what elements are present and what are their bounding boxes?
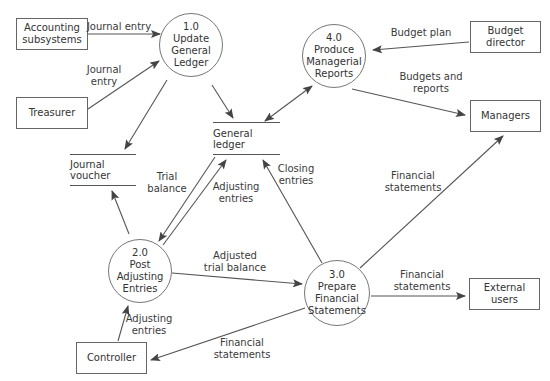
entity-treasurer: Treasurer [16,97,88,129]
label-fs-external: Financial statements [394,269,451,293]
label-journal-entry-1: Journal entry [87,21,151,33]
flow-fs-managers [360,136,503,268]
label-fs-managers: Financial statements [385,170,442,194]
label-fs-controller: Financial statements [214,337,271,361]
store-journal-voucher: Journal voucher [70,154,136,186]
label-budget-plan: Budget plan [391,27,452,39]
process-3-prepare-financial-statements: 3.0 Prepare Financial Statements [304,260,370,326]
process-1-update-general-ledger: 1.0 Update General Ledger [159,13,223,77]
process-4-produce-managerial-reports: 4.0 Produce Managerial Reports [302,24,366,88]
flow-trial-balance [159,157,215,241]
entity-accounting-subsystems: Accountingsubsystems [16,18,88,50]
entity-budget-director: Budgetdirector [470,21,541,53]
store-general-ledger: General ledger [213,122,280,155]
flow-1-to-jv [125,80,167,149]
label-closing-entries: Closing entries [278,163,315,187]
label-adjusting-entries-gl: Adjusting entries [213,181,260,205]
entity-external-users: Externalusers [469,278,540,310]
flow-4-gl [265,86,312,121]
flow-1-to-gl [212,85,233,118]
label-adjusted-trial-balance: Adjusted trial balance [204,250,266,274]
process-2-post-adjusting-entries: 2.0 Post Adjusting Entries [108,239,172,303]
flow-budget-plan [373,42,469,50]
label-adjusting-entries-controller: Adjusting entries [126,313,173,337]
flow-adjusted-trial-balance [172,273,302,284]
entity-managers: Managers [470,100,541,132]
flow-arrows [0,0,550,381]
label-trial-balance: Trial balance [147,171,186,195]
label-budgets-and-reports: Budgets and reports [399,71,462,95]
entity-controller: Controller [76,342,147,374]
label-journal-entry-2: Journal entry [87,64,122,88]
flow-2-to-jv [112,191,129,234]
